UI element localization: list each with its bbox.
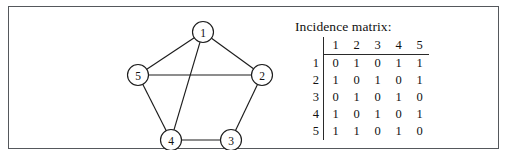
matrix-row: 410101 <box>303 106 429 123</box>
graph-node-label-1: 1 <box>200 27 206 39</box>
graph-edge-1-4 <box>174 42 200 130</box>
matrix-cell-3-4: 1 <box>387 89 408 106</box>
matrix-caption: Incidence matrix: <box>295 19 392 35</box>
graph-edge-4-5 <box>143 84 166 130</box>
graph-node-5: 5 <box>128 65 149 86</box>
matrix-cell-4-3: 1 <box>366 106 387 123</box>
matrix-cell-4-4: 0 <box>387 106 408 123</box>
matrix-cell-1-4: 1 <box>387 55 408 73</box>
matrix-cell-3-5: 0 <box>408 89 429 106</box>
matrix-cell-1-2: 1 <box>345 55 366 73</box>
matrix-cell-4-2: 0 <box>345 106 366 123</box>
matrix-cell-5-1: 1 <box>324 123 346 140</box>
matrix-cell-1-1: 0 <box>324 55 346 73</box>
matrix-cell-2-5: 1 <box>408 72 429 89</box>
graph-node-1: 1 <box>193 22 214 43</box>
matrix-body: 101011210101301010410101511010 <box>303 55 429 141</box>
matrix-row-header-3: 3 <box>303 89 324 106</box>
matrix-cell-5-4: 1 <box>387 123 408 140</box>
matrix-cell-4-1: 1 <box>324 106 346 123</box>
graph-svg: 12345 <box>9 7 281 150</box>
graph-edge-1-5 <box>147 38 194 69</box>
matrix-col-header-4: 4 <box>387 37 408 55</box>
matrix-row-header-5: 5 <box>303 123 324 140</box>
figure-frame: 12345 Incidence matrix: 12345 1010112101… <box>8 6 499 149</box>
matrix-cell-4-5: 1 <box>408 106 429 123</box>
matrix-cell-1-3: 0 <box>366 55 387 73</box>
graph-node-label-5: 5 <box>135 70 141 82</box>
matrix-row-header-2: 2 <box>303 72 324 89</box>
graph-edge-2-3 <box>236 84 258 130</box>
matrix-col-header-1: 1 <box>324 37 346 55</box>
matrix-row: 511010 <box>303 123 429 140</box>
matrix-cell-5-3: 0 <box>366 123 387 140</box>
matrix-cell-2-4: 0 <box>387 72 408 89</box>
matrix-cell-2-1: 1 <box>324 72 346 89</box>
graph-panel: 12345 <box>9 7 281 150</box>
graph-node-label-2: 2 <box>259 70 265 82</box>
matrix-col-header-2: 2 <box>345 37 366 55</box>
matrix-corner-cell <box>303 37 324 55</box>
matrix-cell-3-1: 0 <box>324 89 346 106</box>
matrix-cell-3-3: 0 <box>366 89 387 106</box>
graph-node-3: 3 <box>221 130 242 151</box>
graph-node-label-4: 4 <box>168 135 174 147</box>
matrix-cell-1-5: 1 <box>408 55 429 73</box>
matrix-row-header-4: 4 <box>303 106 324 123</box>
matrix-col-header-3: 3 <box>366 37 387 55</box>
incidence-matrix-table: 12345 101011210101301010410101511010 <box>303 37 429 140</box>
matrix-col-header-5: 5 <box>408 37 429 55</box>
matrix-cell-5-2: 1 <box>345 123 366 140</box>
matrix-header: 12345 <box>303 37 429 55</box>
graph-edge-1-2 <box>211 38 253 69</box>
matrix-header-row: 12345 <box>303 37 429 55</box>
matrix-cell-3-2: 1 <box>345 89 366 106</box>
graph-node-4: 4 <box>161 130 182 151</box>
graph-node-label-3: 3 <box>228 135 234 147</box>
matrix-cell-5-5: 0 <box>408 123 429 140</box>
matrix-row: 101011 <box>303 55 429 73</box>
graph-node-2: 2 <box>252 65 273 86</box>
matrix-row-header-1: 1 <box>303 55 324 73</box>
matrix-panel: Incidence matrix: 12345 1010112101013010… <box>281 7 500 150</box>
matrix-row: 210101 <box>303 72 429 89</box>
matrix-cell-2-2: 0 <box>345 72 366 89</box>
matrix-cell-2-3: 1 <box>366 72 387 89</box>
matrix-row: 301010 <box>303 89 429 106</box>
